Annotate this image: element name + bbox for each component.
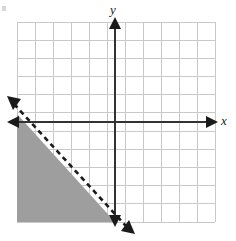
graph-figure: x y — [0, 0, 236, 241]
y-axis-label: y — [110, 3, 116, 16]
coordinate-plane-svg — [0, 0, 236, 241]
x-axis-label: x — [221, 114, 227, 127]
arrow-left-icon — [7, 116, 19, 128]
